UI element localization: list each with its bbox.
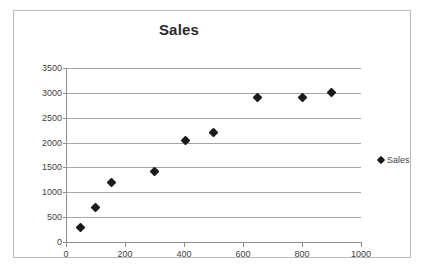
- x-axis-tick-label: 200: [105, 249, 145, 259]
- y-axis-tick-label: 1000: [26, 187, 62, 197]
- x-axis-tick-marks: [66, 243, 362, 248]
- legend-label: Sales: [387, 155, 410, 165]
- y-axis-tick-label: 2500: [26, 113, 62, 123]
- data-point[interactable]: [91, 202, 101, 212]
- x-axis-tick-label: 0: [46, 249, 86, 259]
- gridline: [66, 68, 361, 69]
- y-axis-tick-label: 500: [26, 212, 62, 222]
- y-axis-tick-label: 3000: [26, 88, 62, 98]
- x-axis-tick-mark: [243, 243, 244, 247]
- y-axis-tick-label: 3500: [26, 63, 62, 73]
- x-axis-tick-mark: [66, 243, 67, 247]
- chart-legend: Sales: [378, 155, 410, 165]
- x-axis-tick-label: 600: [223, 249, 263, 259]
- gridline: [66, 167, 361, 168]
- x-axis-tick-label: 800: [282, 249, 322, 259]
- chart-container: Sales 0500100015002000250030003500 02004…: [13, 10, 411, 258]
- gridline: [66, 217, 361, 218]
- legend-marker-icon: [377, 156, 385, 164]
- data-point[interactable]: [76, 223, 86, 233]
- chart-title: Sales: [14, 21, 344, 38]
- y-axis-tick-label: 1500: [26, 162, 62, 172]
- data-point[interactable]: [327, 88, 337, 98]
- x-axis-tick-labels: 02004006008001000: [66, 249, 362, 263]
- gridline: [66, 192, 361, 193]
- plot-area: [66, 68, 361, 242]
- y-axis-tick-label: 0: [26, 237, 62, 247]
- gridline: [66, 118, 361, 119]
- x-axis-tick-label: 1000: [341, 249, 381, 259]
- x-axis-tick-mark: [302, 243, 303, 247]
- gridline: [66, 93, 361, 94]
- gridline: [66, 143, 361, 144]
- data-point[interactable]: [297, 93, 307, 103]
- x-axis-tick-label: 400: [164, 249, 204, 259]
- y-axis-tick-label: 2000: [26, 138, 62, 148]
- data-point[interactable]: [253, 93, 263, 103]
- x-axis-tick-mark: [184, 243, 185, 247]
- data-point[interactable]: [107, 177, 117, 187]
- x-axis-tick-mark: [125, 243, 126, 247]
- x-axis-tick-mark: [361, 243, 362, 247]
- y-axis-tick-labels: 0500100015002000250030003500: [22, 68, 62, 242]
- data-point[interactable]: [209, 128, 219, 138]
- data-point[interactable]: [150, 167, 160, 177]
